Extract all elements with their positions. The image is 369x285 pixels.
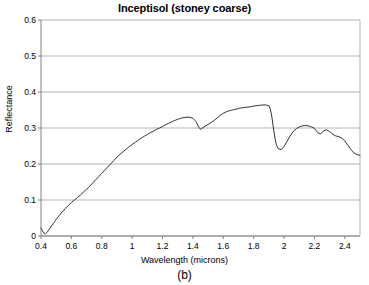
x-tick-label: 1.4	[187, 241, 199, 251]
y-axis-label: Reflectance	[4, 69, 14, 149]
figure-caption: (b)	[0, 268, 369, 282]
chart-plot: 00.10.20.30.40.50.60.40.60.811.21.41.61.…	[0, 0, 369, 285]
x-tick-label: 1.6	[217, 241, 229, 251]
y-tick-label: 0.4	[24, 87, 36, 97]
tick-marks-group	[38, 20, 345, 239]
x-tick-label: 2.2	[309, 241, 321, 251]
figure-container: Inceptisol (stoney coarse) 00.10.20.30.4…	[0, 0, 369, 285]
x-tick-label: 2.4	[339, 241, 351, 251]
x-tick-label: 0.6	[65, 241, 77, 251]
tick-labels-group: 00.10.20.30.40.50.60.40.60.811.21.41.61.…	[24, 15, 351, 251]
x-tick-label: 1.2	[157, 241, 169, 251]
reflectance-curve	[41, 105, 360, 234]
y-tick-label: 0.1	[24, 195, 36, 205]
y-tick-label: 0.6	[24, 15, 36, 25]
y-tick-label: 0.2	[24, 159, 36, 169]
x-axis-label: Wavelength (microns)	[0, 255, 369, 265]
x-tick-label: 2	[282, 241, 287, 251]
x-tick-label: 0.8	[96, 241, 108, 251]
x-tick-label: 1	[130, 241, 135, 251]
y-tick-label: 0.3	[24, 123, 36, 133]
y-tick-label: 0	[31, 231, 36, 241]
x-tick-label: 1.8	[248, 241, 260, 251]
gridlines-group	[41, 20, 360, 236]
data-series-line	[41, 105, 360, 234]
x-tick-label: 0.4	[35, 241, 47, 251]
y-tick-label: 0.5	[24, 51, 36, 61]
